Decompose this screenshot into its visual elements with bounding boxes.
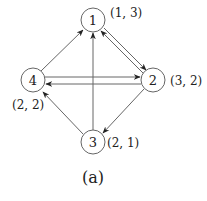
graph-diagram: 1 (1, 3) 2 (3, 2) 3 (2, 1) 4 (2, 2) (a) bbox=[0, 0, 207, 201]
node-2: 2 (3, 2) bbox=[141, 68, 202, 92]
edge-1-to-2 bbox=[104, 28, 146, 70]
edge-4-to-1 bbox=[41, 30, 83, 71]
node-4: 4 (2, 2) bbox=[12, 68, 45, 112]
node-2-coord: (3, 2) bbox=[170, 74, 202, 88]
node-3: 3 (2, 1) bbox=[81, 130, 139, 154]
edge-3-to-4 bbox=[43, 92, 83, 134]
node-4-coord: (2, 2) bbox=[12, 98, 44, 112]
edge-2-to-3 bbox=[103, 89, 144, 133]
node-1: 1 (1, 3) bbox=[81, 6, 142, 32]
node-3-label: 3 bbox=[89, 135, 97, 150]
node-2-label: 2 bbox=[149, 73, 157, 88]
node-4-label: 4 bbox=[29, 73, 37, 88]
edge-2-to-1 bbox=[101, 31, 143, 73]
node-1-label: 1 bbox=[89, 13, 97, 28]
node-3-coord: (2, 1) bbox=[107, 136, 139, 150]
figure-caption: (a) bbox=[82, 168, 104, 187]
node-1-coord: (1, 3) bbox=[110, 6, 142, 20]
